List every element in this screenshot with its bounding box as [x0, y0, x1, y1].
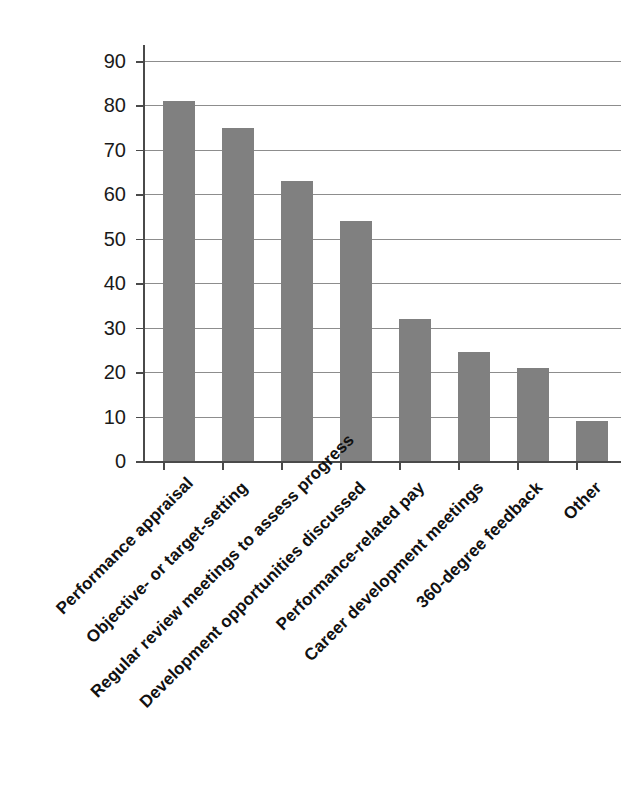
bar-other: [576, 421, 608, 461]
y-axis-line: [143, 45, 145, 462]
x-axis-line: [143, 461, 621, 463]
bar-career-development-meetings: [458, 352, 490, 461]
x-tick-1: [222, 463, 224, 470]
category-label-regular-review-meetings: Regular review meetings to assess progre…: [87, 478, 311, 702]
y-tick-label-70: 70: [104, 139, 126, 162]
y-tick-90: [136, 61, 143, 63]
bar-performance-appraisal: [163, 101, 195, 461]
bar-regular-review-meetings: [281, 181, 313, 461]
x-tick-5: [458, 463, 460, 470]
gridline-50: [143, 239, 621, 240]
y-tick-20: [136, 372, 143, 374]
bar-objective-or-target-setting: [222, 128, 254, 461]
x-tick-6: [517, 463, 519, 470]
gridline-20: [143, 372, 621, 373]
y-tick-0: [136, 461, 143, 463]
gridline-70: [143, 150, 621, 151]
gridline-10: [143, 417, 621, 418]
x-tick-0: [163, 463, 165, 470]
bar-development-opportunities: [340, 221, 372, 461]
x-tick-2: [281, 463, 283, 470]
y-tick-label-30: 30: [104, 317, 126, 340]
x-tick-7: [576, 463, 578, 470]
y-tick-label-40: 40: [104, 272, 126, 295]
y-tick-label-60: 60: [104, 183, 126, 206]
bar-360-degree-feedback: [517, 368, 549, 461]
gridline-60: [143, 194, 621, 195]
y-tick-label-50: 50: [104, 228, 126, 251]
y-tick-50: [136, 239, 143, 241]
gridline-40: [143, 283, 621, 284]
y-tick-label-80: 80: [104, 94, 126, 117]
y-tick-60: [136, 194, 143, 196]
bar-performance-related-pay: [399, 319, 431, 461]
gridline-30: [143, 328, 621, 329]
y-tick-40: [136, 283, 143, 285]
y-tick-label-90: 90: [104, 50, 126, 73]
x-tick-3: [340, 463, 342, 470]
y-tick-label-10: 10: [104, 406, 126, 429]
y-tick-label-0: 0: [115, 450, 126, 473]
y-tick-80: [136, 105, 143, 107]
y-tick-70: [136, 150, 143, 152]
gridline-80: [143, 105, 621, 106]
y-tick-30: [136, 328, 143, 330]
gridline-90: [143, 61, 621, 62]
x-tick-4: [399, 463, 401, 470]
y-tick-10: [136, 417, 143, 419]
y-tick-label-20: 20: [104, 361, 126, 384]
plot-area: [143, 61, 621, 461]
bar-chart: 90 80 70 60 50 40 30 20 10 0 Performance…: [0, 0, 644, 789]
